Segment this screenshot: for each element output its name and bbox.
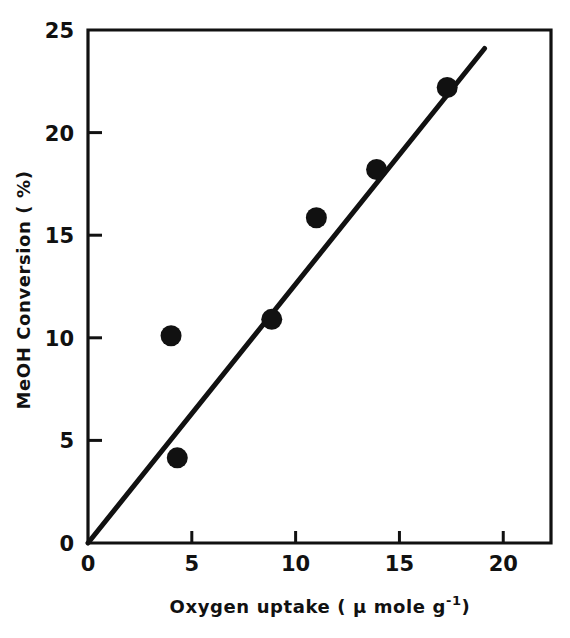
data-point-4: [366, 159, 387, 180]
figure-container: 05101520 0510152025 Oxygen uptake ( μ mo…: [0, 0, 570, 638]
x-tick-label-15: 15: [385, 552, 414, 576]
trend-line-group: [88, 48, 485, 543]
plot-frame: [88, 30, 551, 543]
y-tick-label-10: 10: [45, 327, 74, 351]
scatter-plot: 05101520 0510152025 Oxygen uptake ( μ mo…: [0, 0, 570, 638]
fitted-trend-line: [88, 48, 485, 543]
x-tick-label-10: 10: [281, 552, 310, 576]
x-tick-label-20: 20: [489, 552, 518, 576]
y-tick-label-5: 5: [59, 429, 74, 453]
x-tick-label-0: 0: [81, 552, 96, 576]
data-point-1: [167, 447, 188, 468]
data-point-0: [161, 325, 182, 346]
x-axis-tick-labels: 05101520: [81, 552, 518, 576]
x-axis-ticks: [192, 531, 503, 543]
data-point-5: [437, 77, 458, 98]
y-tick-label-15: 15: [45, 224, 74, 248]
y-axis-ticks: [88, 133, 102, 441]
y-axis-title: MeOH Conversion ( %): [13, 170, 34, 409]
y-axis-tick-labels: 0510152025: [45, 19, 74, 556]
data-point-3: [306, 207, 327, 228]
y-tick-label-20: 20: [45, 122, 74, 146]
y-tick-label-0: 0: [59, 532, 74, 556]
x-axis-title: Oxygen uptake ( μ mole g-1): [170, 593, 471, 617]
plot-frame-box: [88, 30, 551, 543]
x-tick-label-5: 5: [184, 552, 199, 576]
data-point-2: [261, 309, 282, 330]
y-tick-label-25: 25: [45, 19, 74, 43]
